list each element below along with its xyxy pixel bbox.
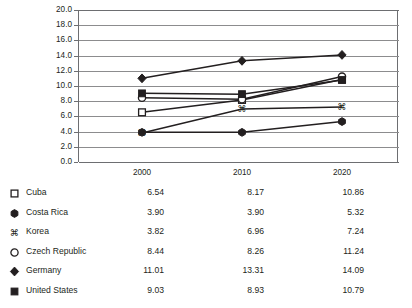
table-row: Germany11.0113.3114.09: [0, 264, 412, 281]
legend-series-name: Cuba: [26, 186, 47, 199]
y-axis-tick-label: 2.0: [26, 143, 72, 151]
legend-marker-open-square-icon: [8, 186, 21, 199]
table-cell-value: 5.32: [312, 206, 364, 219]
data-point-filled-diamond: [10, 267, 18, 276]
data-point-filled-diamond: [338, 51, 346, 60]
data-point-command-symbol: ⌘: [137, 127, 146, 138]
y-axis-tick-label: 8.0: [26, 97, 72, 105]
data-point-filled-square: [239, 91, 246, 98]
y-axis-tick-mark: [74, 162, 78, 163]
data-point-command-symbol: ⌘: [237, 103, 246, 114]
data-point-filled-circle: [339, 118, 346, 126]
data-point-command-symbol: ⌘: [10, 227, 19, 238]
y-axis-tick-label: 10.0: [26, 82, 72, 90]
data-point-open-square: [139, 109, 146, 116]
y-axis-tick-label: 14.0: [26, 52, 72, 60]
table-cell-value: 13.31: [212, 264, 264, 277]
legend-marker-filled-square-icon: [8, 284, 21, 297]
table-cell-value: 3.82: [112, 225, 164, 238]
table-row: Cuba6.548.1710.86: [0, 186, 412, 203]
data-point-filled-circle: [239, 128, 246, 136]
table-cell-value: 10.79: [312, 284, 364, 297]
legend-marker-command-symbol-icon: ⌘: [8, 225, 21, 238]
y-axis-tick-label: 12.0: [26, 67, 72, 75]
table-cell-value: 8.93: [212, 284, 264, 297]
legend-marker-filled-diamond-icon: [8, 264, 21, 277]
y-axis-tick-label: 4.0: [26, 128, 72, 136]
table-cell-value: 8.44: [112, 245, 164, 258]
legend-series-name: Germany: [26, 264, 61, 277]
table-row: United States9.038.9310.79: [0, 284, 412, 301]
data-point-open-square: [11, 190, 18, 197]
series-germany: [138, 51, 346, 83]
data-point-filled-circle: [11, 209, 18, 217]
legend-series-name: Korea: [26, 225, 49, 238]
table-cell-value: 14.09: [312, 264, 364, 277]
table-cell-value: 9.03: [112, 284, 164, 297]
data-point-filled-diamond: [138, 74, 146, 83]
table-cell-value: 6.96: [212, 225, 264, 238]
series-layer: ⌘⌘⌘: [78, 10, 398, 162]
table-row: Czech Republic8.448.2611.24: [0, 245, 412, 262]
svg-text:⌘: ⌘: [137, 127, 146, 138]
data-point-filled-square: [339, 77, 346, 84]
data-point-filled-diamond: [238, 56, 246, 65]
legend-marker-filled-circle-icon: [8, 206, 21, 219]
table-cell-value: 3.90: [112, 206, 164, 219]
chart-figure: 20.018.016.014.012.010.08.06.04.02.00.0 …: [0, 0, 412, 308]
y-axis-tick-label: 0.0: [26, 158, 72, 166]
table-cell-value: 7.24: [312, 225, 364, 238]
gridline: [79, 162, 399, 163]
table-row: ⌘Korea3.826.967.24: [0, 225, 412, 242]
data-point-filled-square: [139, 90, 146, 97]
legend-series-name: Costa Rica: [26, 206, 68, 219]
data-point-command-symbol: ⌘: [337, 101, 346, 112]
table-cell-value: 11.01: [112, 264, 164, 277]
table-cell-value: 10.86: [312, 186, 364, 199]
svg-text:⌘: ⌘: [237, 103, 246, 114]
data-point-open-circle: [11, 249, 18, 256]
series-united-states: [139, 77, 346, 98]
y-axis-tick-label: 6.0: [26, 112, 72, 120]
table-cell-value: 8.26: [212, 245, 264, 258]
legend-series-name: United States: [26, 284, 78, 297]
y-axis-tick-label: 18.0: [26, 21, 72, 29]
table-cell-value: 6.54: [112, 186, 164, 199]
series-czech-republic: [138, 73, 345, 103]
legend-series-name: Czech Republic: [26, 245, 86, 258]
table-row: Costa Rica3.903.905.32: [0, 206, 412, 223]
svg-text:⌘: ⌘: [10, 227, 19, 238]
y-axis-tick-label: 20.0: [26, 6, 72, 14]
plot-area-wrapper: 20.018.016.014.012.010.08.06.04.02.00.0 …: [0, 0, 412, 170]
legend-data-table: Cuba6.548.1710.86Costa Rica3.903.905.32⌘…: [0, 170, 412, 308]
y-axis-tick-label: 16.0: [26, 36, 72, 44]
table-cell-value: 8.17: [212, 186, 264, 199]
table-cell-value: 3.90: [212, 206, 264, 219]
table-cell-value: 11.24: [312, 245, 364, 258]
data-point-filled-square: [11, 288, 18, 295]
svg-text:⌘: ⌘: [337, 101, 346, 112]
legend-marker-open-circle-icon: [8, 245, 21, 258]
